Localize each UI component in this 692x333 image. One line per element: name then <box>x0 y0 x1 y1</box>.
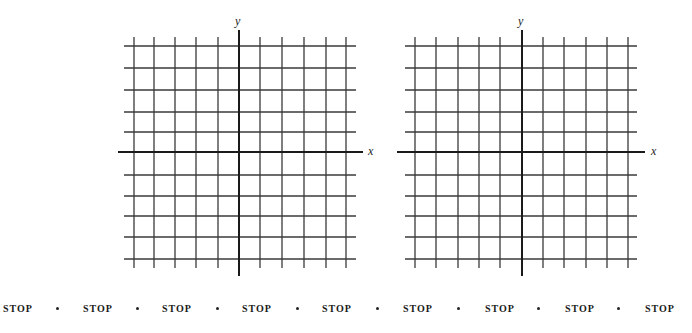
stop-label: STOP <box>162 300 192 318</box>
stop-label: STOP <box>83 300 113 318</box>
bullet-separator <box>216 307 219 310</box>
left-grid-x-axis-label: x <box>368 145 373 157</box>
bullet-separator <box>376 307 379 310</box>
stop-label: STOP <box>322 300 352 318</box>
coordinate-grids <box>0 0 692 333</box>
stop-banner: STOP STOP STOP STOP STOP STOP STOP STOP … <box>0 300 692 318</box>
stop-label: STOP <box>565 300 595 318</box>
bullet-separator <box>56 307 59 310</box>
stop-label: STOP <box>403 300 433 318</box>
right-grid-y-axis-label: y <box>518 15 523 27</box>
bullet-separator <box>296 307 299 310</box>
stop-label: STOP <box>242 300 272 318</box>
bullet-separator <box>136 307 139 310</box>
bullet-separator <box>457 307 460 310</box>
stop-label: STOP <box>645 300 675 318</box>
bullet-separator <box>537 307 540 310</box>
right-grid-x-axis-label: x <box>651 145 656 157</box>
stop-label: STOP <box>3 300 33 318</box>
bullet-separator <box>617 307 620 310</box>
left-grid-y-axis-label: y <box>235 15 240 27</box>
stop-label: STOP <box>485 300 515 318</box>
